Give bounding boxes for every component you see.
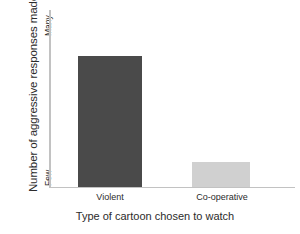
y-axis-title: Number of aggressive responses made: [22, 0, 44, 187]
bar-chart-figure: Number of aggressive responses made Many…: [0, 0, 300, 234]
bar-violent[interactable]: [78, 56, 142, 187]
plot-area: [49, 10, 295, 187]
x-tick-label-cooperative: Co-operative: [186, 192, 258, 202]
x-axis-title: Type of cartoon chosen to watch: [49, 210, 261, 222]
x-tick-label-violent: Violent: [78, 192, 142, 202]
bar-cooperative[interactable]: [192, 162, 250, 187]
